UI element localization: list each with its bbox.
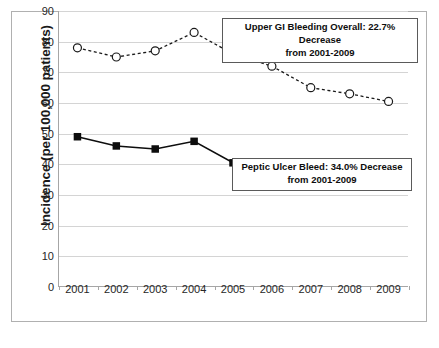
x-axis-tick-label: 2002 — [104, 283, 128, 295]
data-point-marker — [151, 47, 159, 55]
chart-container: Incidence (per 100,000 patients) 0102030… — [0, 0, 439, 348]
annotation-lower-line2: from 2001-2009 — [237, 174, 407, 187]
y-axis-tick-label: 80 — [42, 36, 54, 48]
y-axis-tick-label: 40 — [42, 158, 54, 170]
data-point-marker — [73, 44, 81, 52]
annotation-upper-gi-bleeding: Upper GI Bleeding Overall: 22.7% Decreas… — [222, 18, 418, 63]
x-axis-tick-label: 2006 — [260, 283, 284, 295]
y-axis-tick-label: 10 — [42, 250, 54, 262]
data-point-marker — [307, 84, 315, 92]
y-axis-tick-label: 30 — [42, 189, 54, 201]
data-point-marker — [190, 28, 198, 36]
figure-caption — [6, 331, 436, 345]
x-axis-tick-label: 2003 — [143, 283, 167, 295]
x-axis-tick-label: 2001 — [65, 283, 89, 295]
data-point-marker — [151, 145, 159, 153]
data-point-marker — [385, 97, 393, 105]
data-point-marker — [346, 90, 354, 98]
data-point-marker — [112, 53, 120, 61]
y-axis-tick-label: 20 — [42, 220, 54, 232]
y-axis-tick-label: 0 — [48, 281, 54, 293]
x-axis-tick — [409, 286, 410, 290]
annotation-lower-line1: Peptic Ulcer Bleed: 34.0% Decrease — [237, 161, 407, 174]
annotation-upper-line1: Upper GI Bleeding Overall: 22.7% Decreas… — [227, 21, 413, 47]
y-axis-tick-label: 90 — [42, 5, 54, 17]
annotation-upper-line2: from 2001-2009 — [227, 47, 413, 60]
data-point-marker — [190, 138, 198, 146]
annotation-peptic-ulcer-bleed: Peptic Ulcer Bleed: 34.0% Decrease from … — [232, 158, 412, 191]
x-axis-tick-label: 2008 — [337, 283, 361, 295]
x-axis-tick-label: 2007 — [299, 283, 323, 295]
y-axis-tick-label: 60 — [42, 97, 54, 109]
y-axis-tick-label: 70 — [42, 66, 54, 78]
x-axis-tick-label: 2004 — [182, 283, 206, 295]
x-axis-tick-label: 2009 — [376, 283, 400, 295]
y-axis-tick-label: 50 — [42, 128, 54, 140]
x-axis-tick-label: 2005 — [221, 283, 245, 295]
data-point-marker — [113, 142, 121, 150]
data-point-marker — [74, 133, 82, 141]
